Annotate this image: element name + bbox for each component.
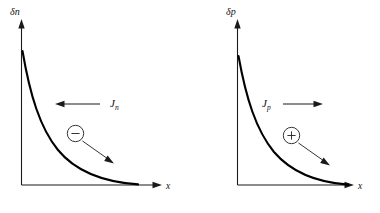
carrier-marker-negative [67,125,83,141]
flux-label-right: Jp [262,97,271,112]
drift-arrow-left-panel [83,141,115,164]
y-axis-arrowhead-right [234,19,240,29]
drift-arrow-shaft-left [83,141,109,159]
hole-diffusion-panel: δp x Jp [226,6,363,191]
flux-label-right-sub: p [266,103,271,112]
diffusion-figure: δn x Jn [0,0,380,213]
x-axis-label-right: x [357,181,363,191]
flux-label-left: Jn [110,97,119,112]
x-axis-arrowhead-left [153,182,163,188]
flux-arrow-left-panel [55,101,100,107]
flux-arrow-head-right [314,101,324,107]
flux-arrow-head-left [55,101,65,107]
carrier-marker-positive [283,127,299,143]
y-axis-arrowhead-left [18,19,24,29]
y-axis-label-left: δn [10,6,20,17]
concentration-profile-curve-right [239,56,349,185]
drift-arrow-shaft-right [299,143,325,161]
y-axis-label-left-var: n [15,6,20,17]
drift-arrow-right-panel [299,143,331,166]
y-axis-label-right: δp [226,6,236,17]
electron-diffusion-panel: δn x Jn [10,6,171,191]
y-axis-label-right-var: p [230,6,236,17]
x-axis-label-left: x [165,181,171,191]
figure-canvas: δn x Jn [0,0,380,213]
concentration-profile-curve-left [23,51,139,184]
flux-arrow-right-panel [283,101,323,107]
flux-label-left-sub: n [115,103,119,112]
